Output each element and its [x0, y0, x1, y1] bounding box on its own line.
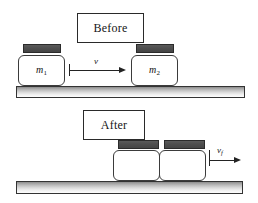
block-after-left [113, 150, 160, 181]
block-after-left-body [113, 150, 160, 181]
block-mass-two: m2 [131, 55, 178, 86]
block-after-left-cap [118, 140, 159, 149]
velocity-final-label: vf [217, 145, 223, 156]
block-mass-one-cap [23, 44, 61, 53]
velocity-initial-arrow-head [119, 67, 126, 73]
velocity-initial-label: v [94, 56, 98, 66]
velocity-final-arrow-tail [209, 150, 210, 166]
velocity-final-arrow-line [209, 160, 236, 161]
block-mass-two-cap [136, 44, 174, 53]
before-caption-box: Before [77, 13, 144, 43]
block-after-right [159, 150, 206, 181]
velocity-initial-symbol: v [94, 56, 98, 66]
block-after-right-body [159, 150, 206, 181]
after-ground-surface [16, 181, 243, 194]
block-mass-one: m1 [18, 55, 65, 86]
velocity-final-subscript: f [221, 149, 223, 156]
mass-one-subscript: 1 [43, 69, 47, 77]
block-after-right-cap [164, 140, 205, 149]
velocity-initial-arrow-line [69, 70, 120, 71]
block-mass-one-label: m1 [18, 55, 65, 86]
mass-two-subscript: 2 [156, 69, 160, 77]
block-mass-two-label: m2 [131, 55, 178, 86]
velocity-final-arrow-head [234, 157, 241, 163]
physics-collision-diagram: Before m1 m2 v After [0, 0, 258, 203]
after-caption-box: After [83, 110, 145, 140]
after-caption-label: After [101, 119, 127, 131]
before-ground-surface [16, 86, 245, 98]
before-caption-label: Before [94, 22, 128, 34]
